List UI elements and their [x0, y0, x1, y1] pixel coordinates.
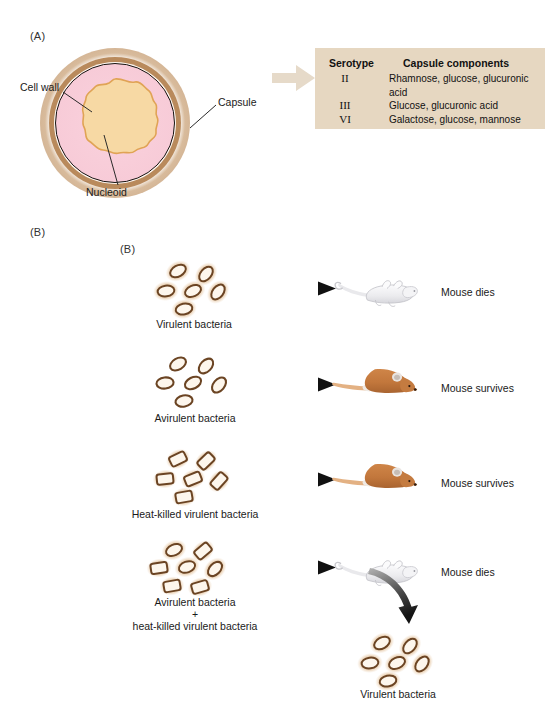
serotype-table: Serotype Capsule components II Rhamnose,…: [315, 48, 545, 129]
curved-arrow-recovery-icon: [362, 572, 432, 638]
mouse-alive-row-2: [324, 358, 434, 412]
table-row: III Glucose, glucuronic acid: [315, 99, 545, 113]
bacteria-cluster-heat-killed: [148, 447, 240, 509]
label-capsule: Capsule: [218, 96, 257, 108]
figure-canvas: (A) Cell wall Capsule Nucleoid Serotype …: [0, 0, 559, 711]
cell-serotype: II: [315, 72, 375, 99]
label-nucleoid: Nucleoid: [86, 186, 127, 198]
row-2-input-label: Avirulent bacteria: [140, 412, 250, 425]
panel-b-label: (B): [30, 226, 45, 238]
bacteria-cluster-recovered-virulent: [352, 630, 444, 692]
row-4-recovered-label: Virulent bacteria: [342, 688, 454, 701]
pointer-arrow-icon: [272, 62, 317, 96]
row-3-input-label: Heat-killed virulent bacteria: [114, 508, 276, 521]
cell-components: Glucose, glucuronic acid: [375, 99, 545, 113]
cell-components: Rhamnose, glucose, glucuronic acid: [375, 72, 545, 99]
table-row: VI Galactose, glucose, mannose: [315, 113, 545, 127]
table-row: II Rhamnose, glucose, glucuronic acid: [315, 72, 545, 99]
arrow-row-1-icon: [238, 279, 343, 297]
serotype-table-header: Serotype Capsule components: [315, 48, 545, 72]
row-1-input-label: Virulent bacteria: [148, 318, 240, 331]
row-4-input-label-line3: heat-killed virulent bacteria: [103, 620, 287, 633]
row-4-outcome: Mouse dies: [441, 566, 495, 578]
header-serotype: Serotype: [315, 57, 389, 69]
cell-serotype: VI: [315, 113, 375, 127]
row-1-outcome: Mouse dies: [441, 286, 495, 298]
panel-b-inner-label: (B): [120, 243, 135, 255]
header-capsule-components: Capsule components: [389, 57, 545, 69]
cell-components: Galactose, glucose, mannose: [375, 113, 545, 127]
row-2-outcome: Mouse survives: [441, 382, 514, 394]
label-cell-wall: Cell wall: [20, 81, 59, 93]
bacteria-cluster-mixed: [143, 538, 243, 604]
bacteria-cluster-virulent: [148, 258, 240, 320]
row-3-outcome: Mouse survives: [441, 477, 514, 489]
bacteria-cluster-avirulent: [148, 352, 240, 414]
cell-serotype: III: [315, 99, 375, 113]
mouse-alive-row-3: [324, 453, 434, 507]
arrow-row-4-icon: [238, 558, 343, 576]
mouse-dead-row-1: [330, 268, 430, 314]
